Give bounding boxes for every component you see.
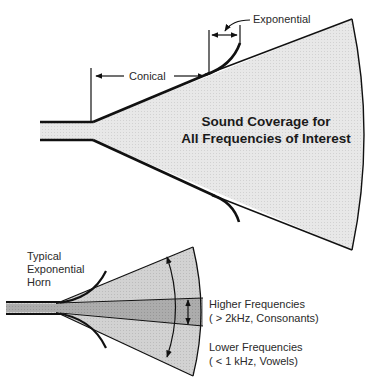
coverage-label-line1: Sound Coverage for xyxy=(201,114,331,129)
typical-horn-label-line3: Horn xyxy=(27,276,51,288)
horn-diagram: Exponential Conical Sound Coverage for A… xyxy=(0,0,376,382)
higher-freq-label-line2: ( > 2kHz, Consonants) xyxy=(209,312,319,324)
coverage-label-line2: All Frequencies of Interest xyxy=(181,131,351,146)
bottom-horn: Typical Exponential Horn Higher Frequenc… xyxy=(6,247,319,376)
lower-freq-label-line2: ( < 1 kHz, Vowels) xyxy=(209,355,298,367)
exponential-label: Exponential xyxy=(253,13,311,25)
conical-label: Conical xyxy=(129,70,166,82)
typical-horn-label-line2: Exponential xyxy=(27,263,85,275)
exponential-pointer-arrow xyxy=(225,20,250,31)
higher-freq-label-line1: Higher Frequencies xyxy=(209,298,305,310)
typical-horn-label-line1: Typical xyxy=(27,250,61,262)
top-horn: Exponential Conical Sound Coverage for A… xyxy=(40,13,364,250)
lower-freq-label-line1: Lower Frequencies xyxy=(209,341,303,353)
